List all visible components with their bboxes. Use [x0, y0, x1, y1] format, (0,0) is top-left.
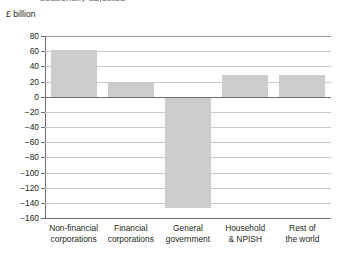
bar-chart: 806040200−20−40−60−80−100−120−140−160 No… [0, 0, 342, 259]
y-axis-tick-label: −40 [1, 122, 39, 132]
bar [165, 97, 211, 208]
y-axis-tick-label: −80 [1, 152, 39, 162]
y-axis-tick-label: 60 [1, 46, 39, 56]
y-axis-tick [41, 82, 45, 83]
y-axis-tick [41, 218, 45, 219]
y-axis-tick-label: −120 [1, 183, 39, 193]
gridline [45, 97, 331, 98]
y-axis-tick-label: 40 [1, 61, 39, 71]
y-axis-tick-label: 20 [1, 77, 39, 87]
y-axis-tick-label: −100 [1, 168, 39, 178]
y-axis-tick [41, 112, 45, 113]
bar [108, 83, 154, 97]
y-axis-tick [41, 127, 45, 128]
y-axis-tick [41, 36, 45, 37]
y-axis-tick-label: −160 [1, 213, 39, 223]
y-axis-tick [41, 51, 45, 52]
bar [222, 75, 268, 97]
x-axis-category-label: Household & NPISH [217, 223, 274, 244]
y-axis-tick-label: 80 [1, 31, 39, 41]
y-axis-tick [41, 66, 45, 67]
y-axis-tick [41, 142, 45, 143]
x-axis-category-labels: Non-financial corporationsFinancial corp… [45, 223, 331, 257]
y-axis-tick [41, 173, 45, 174]
x-axis-category-label: General government [159, 223, 216, 244]
plot-area [45, 36, 331, 218]
y-axis-tick-label: −20 [1, 107, 39, 117]
gridline [45, 218, 331, 219]
y-axis-tick-labels: 806040200−20−40−60−80−100−120−140−160 [0, 0, 39, 259]
y-axis-tick-label: −60 [1, 137, 39, 147]
bar [51, 50, 97, 97]
y-axis-tick-label: −140 [1, 198, 39, 208]
y-axis-tick-label: 0 [1, 92, 39, 102]
gridline [45, 36, 331, 37]
y-axis-tick [41, 188, 45, 189]
y-axis-tick [41, 157, 45, 158]
y-axis-tick [41, 203, 45, 204]
bar [279, 75, 325, 97]
x-axis-category-label: Financial corporations [102, 223, 159, 244]
x-axis-category-label: Rest of the world [274, 223, 331, 244]
x-axis-category-label: Non-financial corporations [45, 223, 102, 244]
